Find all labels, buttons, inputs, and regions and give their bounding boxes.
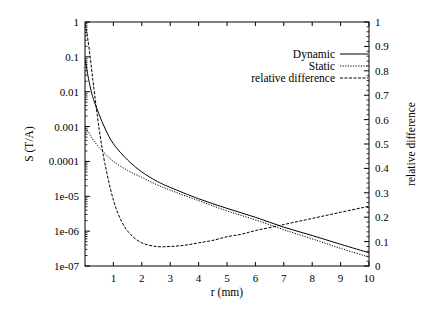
legend-label-relative-difference: relative difference (251, 72, 335, 84)
x-tick-label: 8 (309, 272, 315, 284)
y-tick-label: 1 (74, 16, 80, 28)
x-tick-label: 4 (196, 272, 202, 284)
y-tick-label: 0.001 (54, 121, 79, 133)
x-tick-label: 9 (338, 272, 344, 284)
x-tick-label: 5 (224, 272, 230, 284)
y-tick-label: 0.1 (65, 51, 79, 63)
y-tick-label: 1e-07 (54, 260, 80, 272)
y2-tick-label: 0.9 (375, 40, 389, 52)
y2-tick-label: 0.6 (375, 114, 389, 126)
chart: 1234567891010.10.010.0010.00011e-051e-06… (0, 0, 432, 316)
y-axis-title: S (T/A) (23, 126, 36, 162)
y2-tick-label: 0 (375, 260, 381, 272)
y2-tick-label: 0.5 (375, 138, 389, 150)
y-tick-label: 0.0001 (49, 155, 79, 167)
y2-tick-label: 1 (375, 16, 381, 28)
x-tick-label: 10 (364, 272, 376, 284)
x-tick-label: 6 (253, 272, 259, 284)
y2-tick-label: 0.3 (375, 187, 389, 199)
y2-tick-label: 0.1 (375, 236, 389, 248)
legend-label-static: Static (309, 60, 335, 72)
y2-tick-label: 0.8 (375, 65, 389, 77)
y-tick-label: 1e-06 (54, 225, 80, 237)
x-tick-label: 2 (139, 272, 145, 284)
x-tick-label: 3 (167, 272, 173, 284)
y2-axis-title: relative difference (405, 102, 417, 186)
y-tick-label: 1e-05 (54, 190, 80, 202)
x-tick-label: 7 (281, 272, 287, 284)
y2-tick-label: 0.7 (375, 89, 389, 101)
x-axis-title: r (mm) (211, 286, 243, 299)
y2-tick-label: 0.2 (375, 211, 389, 223)
y2-tick-label: 0.4 (375, 162, 389, 174)
y-tick-label: 0.01 (60, 86, 79, 98)
x-tick-label: 1 (111, 272, 117, 284)
